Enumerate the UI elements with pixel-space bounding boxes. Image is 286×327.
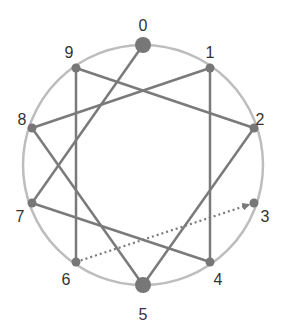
node-8 (28, 124, 37, 133)
edge-5-2 (143, 128, 254, 285)
cycle-diagram: 0123456789 (0, 0, 286, 327)
node-label-0: 0 (139, 17, 148, 34)
edge-0-7 (32, 45, 143, 203)
node-label-3: 3 (261, 208, 270, 225)
node-0 (135, 37, 151, 53)
edges-group (32, 45, 254, 285)
node-label-2: 2 (256, 111, 265, 128)
node-label-7: 7 (16, 208, 25, 225)
edge-8-5 (32, 128, 143, 285)
node-7 (28, 199, 37, 208)
diagram-canvas: 0123456789 (0, 0, 286, 327)
node-label-5: 5 (139, 306, 148, 323)
node-label-6: 6 (62, 271, 71, 288)
node-label-9: 9 (65, 44, 74, 61)
node-3 (250, 199, 259, 208)
node-4 (206, 258, 215, 267)
node-label-1: 1 (206, 44, 215, 61)
edge-2-9 (76, 68, 254, 128)
node-5 (135, 277, 151, 293)
node-9 (72, 64, 81, 73)
node-6 (72, 258, 81, 267)
node-label-8: 8 (18, 111, 27, 128)
node-label-4: 4 (214, 271, 223, 288)
node-1 (206, 64, 215, 73)
